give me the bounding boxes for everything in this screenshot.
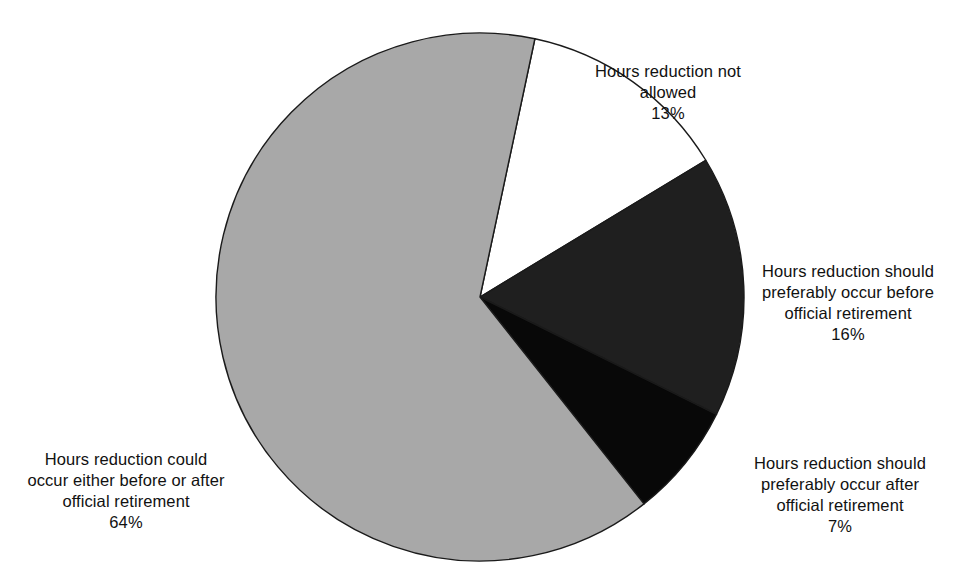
pie-slice-group xyxy=(216,33,744,561)
pie-chart-canvas xyxy=(0,0,962,587)
pie-chart-figure: Hours reduction not allowed 13% Hours re… xyxy=(0,0,962,587)
